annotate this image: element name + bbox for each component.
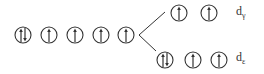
- d-gamma-orbital: [201, 5, 217, 21]
- arrow-up-icon: [124, 29, 128, 43]
- split-line-upper: [139, 12, 165, 35]
- degenerate-orbital: [15, 27, 31, 43]
- d-epsilon-orbital: [185, 52, 201, 68]
- arrow-down-icon: [23, 28, 27, 42]
- arrow-up-icon: [191, 54, 195, 68]
- splitting-diagram: [0, 0, 264, 74]
- d-gamma-orbital: [171, 5, 187, 21]
- label-d-epsilon-sub: ε: [242, 57, 245, 66]
- arrow-up-icon: [73, 29, 77, 43]
- degenerate-orbital: [67, 27, 83, 43]
- d-epsilon-orbital: [211, 52, 227, 68]
- split-line-lower: [139, 35, 156, 51]
- degenerate-orbital: [41, 27, 57, 43]
- label-d-gamma-sub: γ: [242, 11, 246, 20]
- arrow-up-icon: [19, 29, 23, 43]
- arrow-up-icon: [99, 29, 103, 43]
- label-d-gamma: dγ: [236, 4, 246, 20]
- arrow-up-icon: [207, 7, 211, 21]
- degenerate-orbital: [93, 27, 109, 43]
- arrow-up-icon: [217, 54, 221, 68]
- arrow-down-icon: [165, 53, 169, 67]
- d-epsilon-orbital: [157, 52, 173, 68]
- degenerate-orbital: [118, 27, 134, 43]
- arrow-up-icon: [177, 7, 181, 21]
- arrow-up-icon: [161, 54, 165, 68]
- label-d-epsilon: dε: [236, 50, 245, 66]
- arrow-up-icon: [47, 29, 51, 43]
